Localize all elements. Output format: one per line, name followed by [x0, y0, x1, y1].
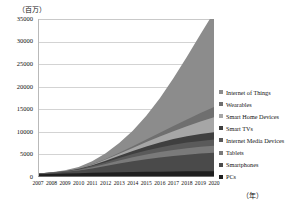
legend-item[interactable]: Internet of Things	[219, 86, 303, 98]
legend-item-label: Tablets	[226, 149, 244, 156]
x-tick-label: 2010	[73, 180, 84, 186]
legend-item-label: Wearables	[226, 101, 252, 108]
legend-swatch-icon	[219, 102, 223, 106]
legend-swatch-icon	[219, 175, 223, 179]
x-tick-label: 2012	[100, 180, 111, 186]
y-tick-label: 35000	[17, 16, 33, 23]
plot-area	[38, 19, 214, 177]
legend-swatch-icon	[219, 138, 223, 142]
legend-swatch-icon	[219, 126, 223, 130]
plot-frame	[38, 19, 214, 177]
x-tick-label: 2014	[127, 180, 138, 186]
y-axis-tick-labels: 05000100001500020000250003000035000	[0, 19, 36, 177]
legend-item-label: Internet Media Devices	[226, 137, 284, 144]
y-axis-unit-label: （百万）	[18, 4, 46, 14]
x-tick-label: 2008	[46, 180, 57, 186]
legend-item-label: Internet of Things	[226, 89, 271, 96]
legend-item[interactable]: Tablets	[219, 146, 303, 158]
y-tick-label: 15000	[17, 106, 33, 113]
chart-legend: Internet of ThingsWearablesSmart Home De…	[219, 86, 303, 183]
legend-item-label: PCs	[226, 173, 236, 180]
legend-item-label: Smart Home Devices	[226, 113, 279, 120]
legend-swatch-icon	[219, 90, 223, 94]
y-tick-label: 20000	[17, 84, 33, 91]
legend-swatch-icon	[219, 151, 223, 155]
y-tick-label: 10000	[17, 129, 33, 136]
x-axis-tick-labels: 2007200820092010201120122013201420152016…	[38, 180, 214, 190]
x-tick-label: 2013	[114, 180, 125, 186]
x-tick-label: 2009	[59, 180, 70, 186]
gridline	[38, 177, 214, 178]
x-tick-label: 2020	[208, 180, 219, 186]
x-tick-label: 2015	[141, 180, 152, 186]
y-tick-label: 30000	[17, 38, 33, 45]
x-axis-unit-label: （年）	[242, 190, 263, 200]
legend-item[interactable]: Wearables	[219, 98, 303, 110]
y-tick-label: 5000	[20, 151, 33, 158]
legend-item-label: Smartphones	[226, 161, 258, 168]
x-tick-label: 2011	[87, 180, 98, 186]
legend-item[interactable]: Smartphones	[219, 159, 303, 171]
x-tick-label: 2019	[195, 180, 206, 186]
x-tick-label: 2018	[181, 180, 192, 186]
legend-item[interactable]: Smart Home Devices	[219, 110, 303, 122]
legend-item[interactable]: Smart TVs	[219, 122, 303, 134]
legend-item-label: Smart TVs	[226, 125, 253, 132]
x-tick-label: 2007	[32, 180, 43, 186]
legend-item[interactable]: Internet Media Devices	[219, 134, 303, 146]
legend-swatch-icon	[219, 114, 223, 118]
chart-page: （百万） 05000100001500020000250003000035000…	[0, 0, 303, 209]
x-tick-label: 2017	[168, 180, 179, 186]
legend-item[interactable]: PCs	[219, 171, 303, 183]
legend-swatch-icon	[219, 163, 223, 167]
x-tick-label: 2016	[154, 180, 165, 186]
y-tick-label: 25000	[17, 61, 33, 68]
